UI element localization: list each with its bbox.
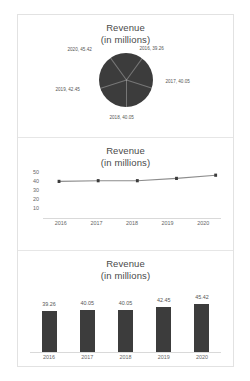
line-y-tick: 50 bbox=[33, 169, 39, 175]
bar-x-axis: 2016 2017 2018 2019 2020 bbox=[30, 353, 221, 361]
bar-data-label: 40.05 bbox=[68, 300, 106, 307]
bar-rect bbox=[156, 307, 171, 352]
bar-title-sub: (in millions) bbox=[18, 270, 233, 282]
pie-plot-area: 2016, 39.26 2017, 40.05 2018, 40.05 2019… bbox=[18, 45, 233, 135]
line-series-plot bbox=[43, 172, 221, 218]
bar-data-label: 39.26 bbox=[30, 301, 68, 308]
line-y-tick: 30 bbox=[33, 187, 39, 193]
line-marker bbox=[58, 180, 61, 183]
bar-x-tick: 2020 bbox=[183, 353, 221, 361]
bar-column: 42.45 bbox=[145, 286, 183, 352]
bar-rect bbox=[42, 311, 57, 352]
bar-chart-panel: Revenue (in millions) 39.26 40.05 40.05 bbox=[18, 250, 233, 366]
line-chart-panel: Revenue (in millions) 50 40 30 20 10 bbox=[18, 137, 233, 250]
bar-rect bbox=[118, 310, 133, 352]
line-x-tick: 2016 bbox=[43, 219, 79, 229]
bar-x-tick: 2018 bbox=[106, 353, 144, 361]
line-title-main: Revenue bbox=[106, 145, 145, 156]
bar-series-plot: 39.26 40.05 40.05 42.45 bbox=[30, 286, 221, 352]
page-canvas: Revenue (in millions) 2016, 39.26 2017, … bbox=[0, 0, 250, 381]
bar-column: 40.05 bbox=[68, 286, 106, 352]
line-y-axis: 50 40 30 20 10 bbox=[24, 172, 41, 218]
line-y-tick: 40 bbox=[33, 178, 39, 184]
line-x-tick: 2017 bbox=[79, 219, 115, 229]
bar-column: 39.26 bbox=[30, 286, 68, 352]
pie-slice-divider bbox=[126, 80, 127, 107]
line-marker bbox=[136, 179, 139, 182]
pie-slice-divider bbox=[126, 58, 143, 80]
pie-title-sub: (in millions) bbox=[18, 34, 233, 46]
bar-x-tick: 2019 bbox=[145, 353, 183, 361]
line-marker bbox=[214, 174, 217, 177]
bar-title-main: Revenue bbox=[106, 258, 145, 269]
pie-slice-divider bbox=[110, 58, 127, 80]
bar-column: 45.42 bbox=[183, 286, 221, 352]
line-x-axis: 2016 2017 2018 2019 2020 bbox=[43, 219, 221, 229]
bar-rect bbox=[194, 304, 209, 352]
pie-data-label: 2016, 39.26 bbox=[140, 46, 164, 52]
line-x-tick: 2020 bbox=[185, 219, 221, 229]
bar-column: 40.05 bbox=[106, 286, 144, 352]
pie-slice-divider bbox=[100, 80, 126, 89]
pie-data-label: 2019, 42.45 bbox=[56, 87, 80, 93]
line-x-tick: 2019 bbox=[150, 219, 186, 229]
bar-data-label: 40.05 bbox=[106, 300, 144, 307]
line-chart-title: Revenue (in millions) bbox=[18, 138, 233, 168]
pie-graphic bbox=[99, 53, 153, 107]
line-title-sub: (in millions) bbox=[18, 157, 233, 169]
line-marker bbox=[97, 179, 100, 182]
line-plot-area: 50 40 30 20 10 bbox=[24, 172, 221, 234]
pie-chart-panel: Revenue (in millions) 2016, 39.26 2017, … bbox=[18, 15, 233, 137]
pie-title-main: Revenue bbox=[106, 22, 145, 33]
bar-data-label: 42.45 bbox=[145, 297, 183, 304]
bar-data-label: 45.42 bbox=[183, 294, 221, 301]
line-y-tick: 20 bbox=[33, 196, 39, 202]
line-y-tick: 10 bbox=[33, 205, 39, 211]
line-marker bbox=[175, 177, 178, 180]
line-series-svg bbox=[43, 172, 221, 218]
bar-x-tick: 2017 bbox=[68, 353, 106, 361]
report-document: Revenue (in millions) 2016, 39.26 2017, … bbox=[17, 14, 234, 367]
bar-plot-area: 39.26 40.05 40.05 42.45 bbox=[30, 286, 221, 364]
pie-slice-divider bbox=[126, 80, 152, 89]
line-x-tick: 2018 bbox=[114, 219, 150, 229]
pie-chart-title: Revenue (in millions) bbox=[18, 15, 233, 45]
pie-data-label: 2020, 45.42 bbox=[68, 47, 92, 53]
bar-chart-title: Revenue (in millions) bbox=[18, 251, 233, 281]
pie-data-label: 2017, 40.05 bbox=[166, 79, 190, 85]
pie-data-label: 2018, 40.05 bbox=[110, 115, 134, 121]
bar-x-tick: 2016 bbox=[30, 353, 68, 361]
bar-rect bbox=[80, 310, 95, 352]
